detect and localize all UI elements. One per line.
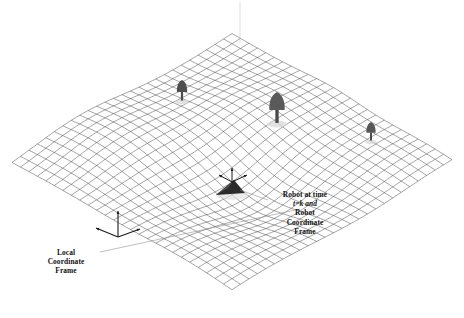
robot-label-line-3: Robot [258,208,352,217]
figure-container: Robot at time t=k and Robot Coordinate F… [0,0,464,318]
local-coordinate-frame-label: Local Coordinate Frame [20,248,112,276]
robot-label-line-5: Frame [258,227,352,236]
local-axis-y-head [137,229,140,232]
local-label-line-3: Frame [20,266,112,275]
robot-label-line-1: Robot at time [258,190,352,199]
robot-label-line-4: Coordinate [258,218,352,227]
local-axis-x [96,228,118,237]
tree-trunk-0 [181,92,183,101]
robot-label-line-2: t=k and [258,199,352,208]
local-label-line-2: Coordinate [20,257,112,266]
robot-coordinate-frame-label: Robot at time t=k and Robot Coordinate F… [258,190,352,236]
robot-body [216,180,245,195]
local-label-line-1: Local [20,248,112,257]
tree-crown-0 [177,80,187,92]
tree-trunk-2 [370,132,372,140]
tree-trunk-1 [275,109,278,123]
